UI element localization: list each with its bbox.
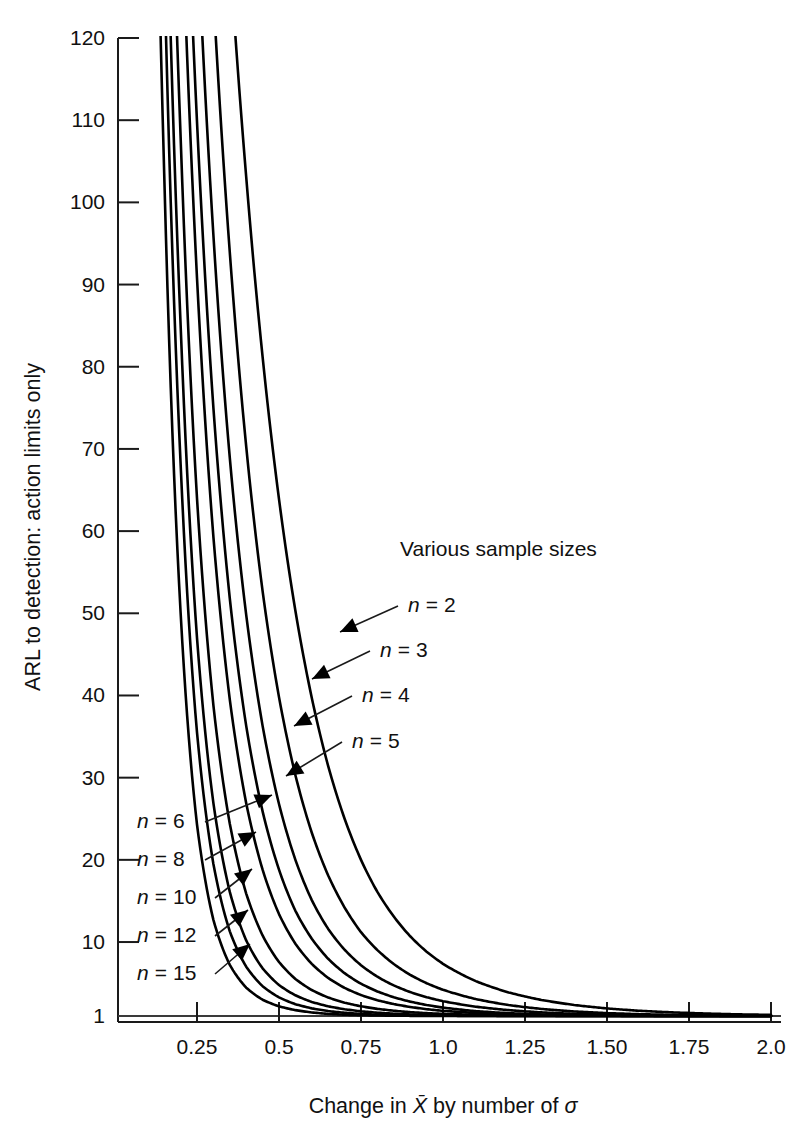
series-label-n-2: n=2 <box>408 593 456 616</box>
arl-curve-n-4 <box>182 0 771 1016</box>
y-tick-label: 20 <box>82 848 105 871</box>
y-tick-label: 90 <box>82 273 105 296</box>
y-tick-label: 110 <box>72 108 105 131</box>
annotation-n-3: n=3 <box>312 638 428 679</box>
series-label-n-15: n=15 <box>137 961 196 984</box>
x-tick-label: 0.75 <box>341 1035 382 1058</box>
arl-curve-n-5 <box>176 0 771 1016</box>
series-label-n-6: n=6 <box>137 809 185 832</box>
arl-curve-n-8 <box>164 0 771 1016</box>
x-tick-label: 1.75 <box>669 1035 710 1058</box>
y-tick-label: 80 <box>82 355 105 378</box>
series-label-n-12: n=12 <box>137 923 196 946</box>
x-tick-label: 1.0 <box>428 1035 457 1058</box>
y-tick-label: 30 <box>82 766 105 789</box>
series-label-n-10: n=10 <box>137 885 196 908</box>
arl-curve-n-10 <box>159 0 771 1016</box>
arrow-icon-n-10 <box>234 869 252 885</box>
x-tick-label: 1.50 <box>587 1035 628 1058</box>
axes-layer <box>118 38 781 1022</box>
y-tick-label: 100 <box>70 190 105 213</box>
annotation-n-12: n=12 <box>137 910 248 946</box>
annotation-n-4: n=4 <box>294 683 410 726</box>
various-sample-sizes-label: Various sample sizes <box>400 537 597 560</box>
y-tick-label: 50 <box>82 601 105 624</box>
series-label-n-8: n=8 <box>137 847 185 870</box>
y-tick-label: 10 <box>82 930 105 953</box>
arl-curve-n-12 <box>156 0 771 1016</box>
x-tick-label: 0.25 <box>177 1035 218 1058</box>
series-label-n-5: n=5 <box>352 729 400 752</box>
x-tick-label: 1.25 <box>505 1035 546 1058</box>
arl-chart-figure: 11020304050607080901001101200.250.50.751… <box>0 0 812 1121</box>
chart-canvas: 11020304050607080901001101200.250.50.751… <box>0 0 812 1121</box>
arrow-icon-n-5 <box>286 761 304 776</box>
curves-layer <box>151 0 771 1016</box>
arl-curve-n-2 <box>207 0 771 1015</box>
series-label-n-3: n=3 <box>380 638 428 661</box>
arl-curve-n-6 <box>171 0 771 1016</box>
x-tick-label: 2.0 <box>756 1035 785 1058</box>
annotation-n-5: n=5 <box>286 729 400 776</box>
series-label-n-4: n=4 <box>362 683 410 706</box>
annotation-n-15: n=15 <box>137 944 250 984</box>
x-axis-title: Change in X̄ by number of σ <box>309 1094 579 1118</box>
annotations-layer: Various sample sizesn=2n=3n=4n=5n=6n=8n=… <box>137 537 597 984</box>
annotation-n-10: n=10 <box>137 869 252 908</box>
y-tick-label: 70 <box>82 437 105 460</box>
x-tick-label: 0.5 <box>264 1035 293 1058</box>
arrow-icon-n-12 <box>230 910 248 926</box>
y-tick-label: 1 <box>93 1004 105 1027</box>
y-tick-label: 60 <box>82 519 105 542</box>
y-tick-label: 120 <box>70 26 105 49</box>
y-axis-title: ARL to detection: action limits only <box>21 363 45 691</box>
y-tick-label: 40 <box>82 683 105 706</box>
arrow-icon-n-4 <box>294 712 313 726</box>
annotation-n-2: n=2 <box>340 593 456 632</box>
